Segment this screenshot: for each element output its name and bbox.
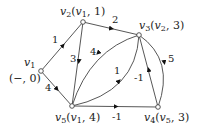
label-v2: v2(v1, 1) — [60, 5, 105, 19]
weight-v2-v5: 3 — [70, 53, 76, 64]
node-v3 — [137, 33, 142, 38]
node-v4 — [156, 105, 161, 110]
edge-v5-v4 — [72, 106, 158, 107]
edge-v3-v4-curve — [139, 35, 164, 107]
label-v3: v3(v2, 3) — [139, 19, 184, 33]
weight-v4-v3: -1 — [134, 72, 144, 83]
weight-v1-v2: 1 — [52, 34, 58, 45]
node-v2 — [81, 20, 86, 25]
weight-v5-v3: 1 — [114, 65, 120, 76]
edge-v5-v3-curve — [72, 35, 139, 106]
weight-v3-v5: 4 — [90, 46, 96, 57]
edge-v1-v2 — [41, 22, 83, 71]
label-v1: v1 — [24, 56, 35, 70]
label-v5: v5(v1, 4) — [55, 111, 100, 125]
weight-v5-v4: -1 — [112, 111, 122, 122]
node-v5 — [70, 104, 75, 109]
edge-v2-v5 — [72, 22, 83, 106]
weight-v3-v4: 5 — [168, 53, 174, 64]
label-v1-annotation: (−, 0) — [9, 72, 41, 85]
weight-v2-v3: 2 — [112, 14, 118, 25]
weight-v1-v5: 4 — [45, 82, 51, 93]
graph-diagram: v1 (−, 0) v2(v1, 1) v3(v2, 3) v4(v5, 3) … — [0, 0, 201, 128]
label-v4: v4(v5, 3) — [144, 111, 189, 125]
edge-v2-v3 — [83, 22, 139, 35]
edge-v4-v3 — [139, 35, 158, 107]
